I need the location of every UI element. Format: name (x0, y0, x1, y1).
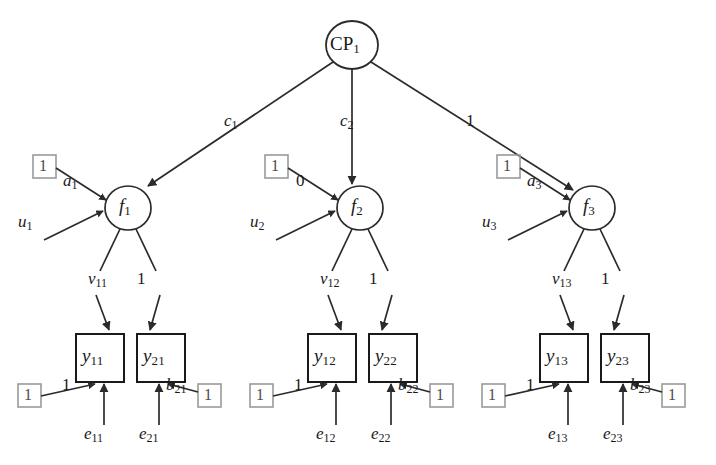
f3-loading-label-1: v13 (552, 270, 572, 289)
e12-label: e12 (316, 425, 336, 444)
f1-loading-label-2: 1 (137, 270, 146, 289)
f3-fan-right (600, 229, 620, 271)
path-f3-to-y23 (614, 295, 624, 330)
f1-const-box-label: 1 (39, 158, 47, 174)
y12-const-box-label: 1 (256, 387, 264, 403)
diagram-vector-layer (0, 0, 716, 465)
path-diagram-canvas: CP1 c1 c2 1 1 a1 u1 f1 v11 1 y11 y21 e11… (0, 0, 716, 465)
f3-label: f3 (583, 196, 595, 217)
y13-const-box-label: 1 (488, 387, 496, 403)
y11-const-path-label: 1 (62, 376, 71, 393)
path-label-one-f3: 1 (466, 112, 475, 131)
y13-const-path-label: 1 (526, 376, 535, 393)
f1-label: f1 (119, 196, 131, 217)
y12-const-path-label: 1 (294, 376, 303, 393)
e22-label: e22 (371, 425, 391, 444)
path-f3-to-y13 (560, 295, 573, 330)
f1-fan-left (100, 229, 120, 271)
f2-loading-label-2: 1 (369, 270, 378, 289)
f3-const-box-label: 1 (503, 158, 511, 174)
path-f1-to-y21 (150, 295, 160, 330)
e13-label: e13 (548, 425, 568, 444)
f2-loading-label-1: v12 (320, 270, 340, 289)
f1-const-path-label: a1 (63, 172, 78, 191)
f3-disturbance-label: u3 (482, 213, 497, 232)
path-label-c1: c1 (224, 112, 238, 131)
f3-loading-label-2: 1 (601, 270, 610, 289)
path-u3-to-f3 (508, 211, 567, 240)
f3-fan-left (564, 229, 584, 271)
cp1-label: CP1 (330, 34, 360, 55)
path-u2-to-f2 (276, 211, 335, 240)
path-cp1-to-f1 (148, 62, 333, 186)
f2-const-path-label: 0 (296, 172, 305, 189)
e11-label: e11 (84, 425, 103, 444)
f2-fan-right (368, 229, 388, 271)
y22-const-box-label: 1 (436, 387, 444, 403)
f3-const-path-label: a3 (527, 172, 542, 191)
y23-label: y23 (607, 346, 629, 367)
path-label-c2: c2 (340, 112, 354, 131)
f2-disturbance-label: u2 (250, 213, 265, 232)
e23-label: e23 (603, 425, 623, 444)
path-f1-to-y11 (96, 295, 109, 330)
e21-label: e21 (139, 425, 159, 444)
f2-const-box-label: 1 (271, 158, 279, 174)
y21-const-path-label: b21 (166, 376, 187, 395)
y23-const-box-label: 1 (668, 387, 676, 403)
f2-fan-left (332, 229, 352, 271)
y23-const-path-label: b23 (630, 376, 651, 395)
path-f2-to-y12 (328, 295, 341, 330)
y22-label: y22 (375, 346, 397, 367)
f1-fan-right (136, 229, 156, 271)
path-f2-to-y22 (382, 295, 392, 330)
f2-label: f2 (351, 196, 363, 217)
f1-loading-label-1: v11 (88, 270, 107, 289)
y11-const-box-label: 1 (24, 387, 32, 403)
y12-label: y12 (314, 346, 336, 367)
y21-const-box-label: 1 (204, 387, 212, 403)
y11-label: y11 (82, 346, 103, 367)
y22-const-path-label: b22 (398, 376, 419, 395)
y13-label: y13 (546, 346, 568, 367)
y21-label: y21 (143, 346, 165, 367)
path-u1-to-f1 (44, 211, 103, 240)
f1-disturbance-label: u1 (18, 213, 33, 232)
